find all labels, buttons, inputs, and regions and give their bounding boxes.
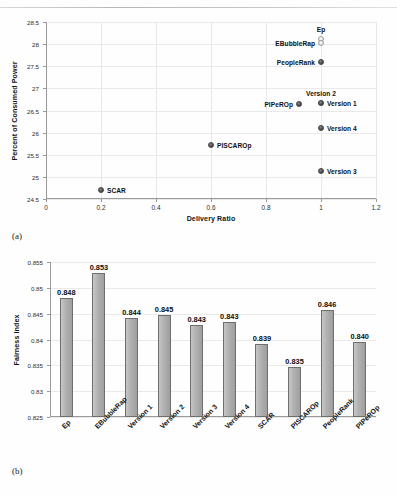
- y-axis-title: Percent of Consumed Power: [11, 61, 19, 160]
- scatter-point-label: Version 2: [306, 89, 336, 96]
- scatter-chart-panel-a: 24.52525.52626.52727.52828.500.20.40.60.…: [0, 12, 397, 227]
- y-axis-tick-label: 24.5: [0, 196, 39, 203]
- gridline-vertical: [101, 22, 102, 199]
- x-axis-tick-label: 0.8: [262, 204, 271, 211]
- y-axis-tick-label: 25.5: [0, 151, 39, 158]
- y-axis-tick-label: 27.5: [0, 63, 39, 70]
- y-axis-tick-label: 0.85: [0, 284, 43, 291]
- axis-tick-x: [266, 199, 267, 202]
- scatter-point-label: Version 1: [327, 99, 357, 106]
- axis-tick-x: [101, 199, 102, 202]
- y-axis-tick-label: 27: [0, 85, 39, 92]
- bar-value-label: 0.845: [155, 305, 174, 314]
- bar: [255, 344, 268, 417]
- scatter-point: [296, 101, 302, 107]
- bar: [190, 325, 203, 417]
- bar: [158, 315, 171, 417]
- bar: [60, 298, 73, 417]
- y-axis-tick-label: 26.5: [0, 107, 39, 114]
- bar-value-label: 0.843: [187, 315, 206, 324]
- bar: [353, 342, 366, 417]
- scatter-point-label: Ep: [317, 25, 326, 32]
- x-axis-tick-label: 1: [319, 204, 323, 211]
- bar-value-label: 0.846: [318, 300, 337, 309]
- scatter-point-label: PIPeROp: [264, 101, 293, 108]
- x-axis-line: [46, 198, 376, 199]
- y-axis-tick-label: 0.835: [0, 362, 43, 369]
- x-axis-tick-label: 0.4: [152, 204, 161, 211]
- x-axis-tick-label: 0: [44, 204, 48, 211]
- bar-value-label: 0.853: [90, 263, 109, 272]
- axis-tick-x: [156, 199, 157, 202]
- scatter-point-label: PeopleRank: [277, 58, 315, 65]
- y-axis-line: [46, 22, 47, 199]
- gridline-vertical: [156, 22, 157, 199]
- scatter-point: [318, 100, 324, 106]
- gridline-vertical: [376, 22, 377, 199]
- bar-value-label: 0.844: [122, 308, 141, 317]
- bar: [223, 322, 236, 417]
- bar-chart-panel-b: 0.8250.830.8350.840.8450.850.855Fairness…: [0, 252, 397, 462]
- bar-category-label: Ep: [61, 419, 72, 430]
- scatter-point: [318, 168, 324, 174]
- y-axis-title: Fairness Index: [13, 314, 21, 365]
- y-axis-tick-label: 0.84: [0, 336, 43, 343]
- x-axis-title: Delivery Ratio: [187, 215, 236, 223]
- y-axis-tick-label: 0.855: [0, 259, 43, 266]
- y-axis-tick-label: 28.5: [0, 19, 39, 26]
- axis-tick-y: [47, 417, 50, 418]
- scatter-point-label: SCAR: [107, 187, 126, 194]
- scatter-point-label: PISCAROp: [217, 141, 251, 148]
- y-axis-tick-label: 0.83: [0, 388, 43, 395]
- bar-value-label: 0.843: [220, 312, 239, 321]
- bar-plot-area: [50, 262, 376, 417]
- axis-tick-x: [211, 199, 212, 202]
- bar-value-label: 0.835: [285, 357, 304, 366]
- scatter-point: [98, 187, 104, 193]
- figure-page: 24.52525.52626.52727.52828.500.20.40.60.…: [0, 0, 397, 495]
- bar: [125, 318, 138, 417]
- y-axis-tick-label: 0.845: [0, 310, 43, 317]
- scatter-point: [208, 142, 214, 148]
- scan-rule: [0, 7, 397, 8]
- bar-value-label: 0.840: [350, 332, 369, 341]
- bar-value-label: 0.839: [253, 334, 272, 343]
- gridline-vertical: [211, 22, 212, 199]
- bar: [321, 310, 334, 417]
- scatter-point: [318, 59, 324, 65]
- x-axis-tick-label: 1.2: [372, 204, 381, 211]
- axis-tick-x: [376, 199, 377, 202]
- scatter-point-label: EBubbleRap: [275, 40, 315, 47]
- scatter-point: [318, 125, 324, 131]
- y-axis-tick-label: 26: [0, 129, 39, 136]
- scatter-point: [318, 40, 324, 46]
- y-axis-tick-label: 28: [0, 41, 39, 48]
- axis-tick-x: [321, 199, 322, 202]
- y-axis-tick-label: 25: [0, 173, 39, 180]
- x-axis-tick-label: 0.6: [207, 204, 216, 211]
- scatter-point-label: Version 4: [327, 125, 357, 132]
- y-axis-line: [50, 262, 51, 417]
- x-axis-tick-label: 0.2: [97, 204, 106, 211]
- axis-tick-x: [46, 199, 47, 202]
- scatter-point-label: Version 3: [327, 167, 357, 174]
- bar: [288, 367, 301, 417]
- caption-a: (a): [12, 231, 22, 241]
- y-axis-tick-label: 0.825: [0, 414, 43, 421]
- bar: [92, 273, 105, 417]
- bar-value-label: 0.848: [57, 288, 76, 297]
- gridline-vertical: [266, 22, 267, 199]
- caption-b: (b): [12, 466, 23, 476]
